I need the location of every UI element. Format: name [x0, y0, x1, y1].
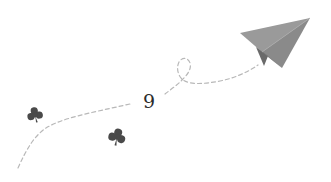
- paper-plane-icon: [240, 18, 310, 68]
- clover-icon: [106, 126, 127, 147]
- clover-icon: [26, 106, 44, 124]
- number-label: 9: [139, 90, 159, 112]
- illustration-canvas: 9: [0, 0, 331, 182]
- illustration-art: [0, 0, 331, 182]
- flight-path-upper: [165, 58, 258, 94]
